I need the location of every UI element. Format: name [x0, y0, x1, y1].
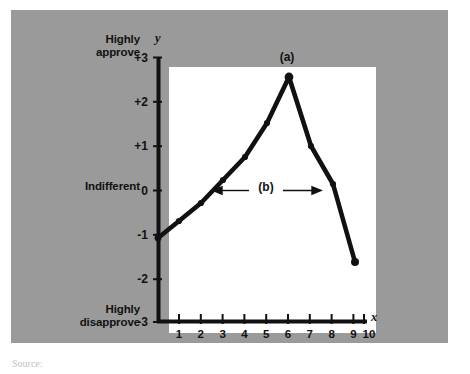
series-line-approval	[158, 77, 355, 262]
x-tick-label: 6	[280, 328, 296, 340]
data-point	[285, 73, 294, 82]
data-point	[330, 181, 336, 187]
x-tick-label: 2	[193, 328, 209, 340]
x-tick-label: 8	[324, 328, 340, 340]
y-tick-label: -2	[126, 272, 148, 286]
data-point	[198, 200, 204, 206]
x-tick-label: 7	[302, 328, 318, 340]
figure-root: Highly approve Indifferent Highly disapp…	[0, 0, 470, 374]
y-tick-label: -3	[126, 315, 148, 329]
x-tick-label: 10	[359, 328, 379, 340]
x-tick-label: 1	[171, 328, 187, 340]
chart-svg	[0, 0, 470, 374]
x-tick-label: 3	[215, 328, 231, 340]
y-tick-label: 0	[126, 184, 148, 198]
data-point	[308, 143, 314, 149]
x-tick-label: 4	[236, 328, 252, 340]
y-tick-label: +3	[126, 51, 148, 65]
x-tick-label: 5	[258, 328, 274, 340]
data-point	[220, 177, 226, 183]
y-tick-label: -1	[126, 228, 148, 242]
annotation-b-arrow	[213, 187, 321, 194]
caption-remnant: Source:	[12, 358, 312, 372]
data-point	[176, 218, 182, 224]
data-point	[351, 258, 359, 266]
data-point	[242, 154, 248, 160]
data-point	[155, 235, 162, 242]
y-tick-label: +1	[126, 139, 148, 153]
series-markers-approval	[155, 73, 359, 266]
y-tick-label: +2	[126, 95, 148, 109]
data-point	[264, 120, 270, 126]
